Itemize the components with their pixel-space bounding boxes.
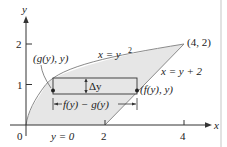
- vertex-label: (4, 2): [187, 36, 211, 49]
- x-tick-label-2: 2: [101, 130, 107, 142]
- right-point-dot: [135, 89, 139, 93]
- region-diagram: 0 2 4 1 2 x y Δy f(y) − g(y) (g(y), y) (…: [0, 0, 227, 147]
- x-axis-arrow-icon: [205, 122, 212, 127]
- line-label: x = y + 2: [160, 65, 203, 77]
- left-point-dot: [51, 89, 55, 93]
- y-axis-arrow-icon: [23, 16, 28, 23]
- width-label: f(y) − g(y): [63, 98, 109, 111]
- y-tick-label-2: 2: [16, 38, 22, 50]
- parabola-label: x = y: [97, 48, 121, 60]
- delta-y-label: Δy: [89, 80, 102, 92]
- right-point-label: (f(y), y): [140, 83, 173, 96]
- arrow-right-icon: [132, 102, 136, 105]
- parabola-exponent: 2: [128, 46, 132, 55]
- x-axis-label: x: [213, 119, 219, 131]
- x-tick-label-0: 0: [17, 130, 23, 142]
- y-tick-label-1: 1: [17, 79, 23, 91]
- left-point-label: (g(y), y): [33, 52, 69, 65]
- bottom-boundary-label: y = 0: [50, 130, 75, 142]
- x-tick-label-4: 4: [180, 130, 186, 142]
- y-axis-label: y: [21, 3, 27, 15]
